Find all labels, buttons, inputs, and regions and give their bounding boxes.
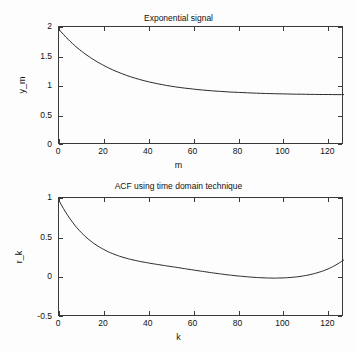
xtick-label-top-20: 20 xyxy=(98,147,107,156)
ylabel-acf: r_k xyxy=(14,232,24,282)
exponential-curve xyxy=(59,29,344,94)
matlab-figure-canvas: Exponential signal 2 1.5 1 0.5 0 y_m xyxy=(0,0,357,353)
xtick-label-acf-40: 40 xyxy=(143,319,152,328)
xlabel-exponential: m xyxy=(0,160,357,170)
xtick-label-acf-20: 20 xyxy=(98,319,107,328)
xtick-bottom-acf-20 xyxy=(104,311,105,315)
xtick-top-80 xyxy=(239,27,240,31)
ytick-label-top-1: 0.5 xyxy=(34,110,52,119)
xtick-label-top-40: 40 xyxy=(143,147,152,156)
xtick-label-acf-60: 60 xyxy=(188,319,197,328)
xtick-label-top-80: 80 xyxy=(233,147,242,156)
exponential-curve-svg xyxy=(59,27,344,145)
chart-title-exponential: Exponential signal xyxy=(0,13,357,23)
xtick-label-top-120: 120 xyxy=(320,147,334,156)
ytick-label-top-3: 1.5 xyxy=(34,51,52,60)
xtick-bottom-acf-0 xyxy=(59,311,60,315)
xtick-label-top-100: 100 xyxy=(275,147,289,156)
ytick-left-0p5 xyxy=(59,116,63,117)
plot-area-exponential xyxy=(58,26,343,144)
ytick-label-top-2: 1 xyxy=(34,81,52,90)
ytick-left-1 xyxy=(59,86,63,87)
ytick-label-bottom-2: 0.5 xyxy=(30,232,52,241)
xtick-top-100 xyxy=(283,27,284,31)
ytick-left-2 xyxy=(59,27,63,28)
xtick-bottom-20 xyxy=(104,139,105,143)
xtick-top-acf-100 xyxy=(283,198,284,202)
ytick-right-acf-m0p5 xyxy=(338,316,342,317)
ytick-right-1 xyxy=(338,86,342,87)
plot-area-acf xyxy=(58,197,343,316)
xtick-bottom-acf-100 xyxy=(283,311,284,315)
xtick-bottom-120 xyxy=(328,139,329,143)
ytick-label-top-4: 2 xyxy=(34,22,52,31)
xtick-top-acf-80 xyxy=(239,198,240,202)
ytick-left-acf-0p5 xyxy=(59,238,63,239)
ytick-right-acf-1 xyxy=(338,198,342,199)
xtick-bottom-0 xyxy=(59,139,60,143)
xtick-top-120 xyxy=(328,27,329,31)
xtick-bottom-40 xyxy=(149,139,150,143)
xtick-top-acf-40 xyxy=(149,198,150,202)
xtick-label-acf-0: 0 xyxy=(56,319,61,328)
ytick-label-bottom-1: 0 xyxy=(30,272,52,281)
ytick-left-acf-m0p5 xyxy=(59,316,63,317)
xtick-top-40 xyxy=(149,27,150,31)
xtick-label-top-60: 60 xyxy=(188,147,197,156)
ytick-right-0 xyxy=(338,144,342,145)
ytick-left-0 xyxy=(59,144,63,145)
xtick-bottom-acf-80 xyxy=(239,311,240,315)
ytick-label-bottom-3: 1 xyxy=(30,193,52,202)
ytick-left-1p5 xyxy=(59,57,63,58)
ylabel-exponential: y_m xyxy=(17,60,27,110)
acf-curve-svg xyxy=(59,198,344,317)
xtick-label-top-0: 0 xyxy=(56,147,61,156)
xtick-label-acf-100: 100 xyxy=(275,319,289,328)
xtick-label-acf-80: 80 xyxy=(233,319,242,328)
ytick-right-acf-0 xyxy=(338,277,342,278)
xtick-bottom-100 xyxy=(283,139,284,143)
xtick-top-acf-60 xyxy=(194,198,195,202)
xtick-label-acf-120: 120 xyxy=(320,319,334,328)
chart-title-acf: ACF using time domain technique xyxy=(0,181,357,191)
xlabel-acf: k xyxy=(0,332,357,342)
ytick-left-acf-1 xyxy=(59,198,63,199)
xtick-bottom-acf-120 xyxy=(328,311,329,315)
ytick-right-2 xyxy=(338,27,342,28)
axes-acf-time-domain: ACF using time domain technique 1 0.5 0 … xyxy=(0,181,357,353)
xtick-top-acf-20 xyxy=(104,198,105,202)
ytick-right-1p5 xyxy=(338,57,342,58)
xtick-top-60 xyxy=(194,27,195,31)
xtick-bottom-80 xyxy=(239,139,240,143)
ytick-right-0p5 xyxy=(338,116,342,117)
xtick-bottom-acf-60 xyxy=(194,311,195,315)
xtick-bottom-acf-40 xyxy=(149,311,150,315)
ytick-left-acf-0 xyxy=(59,277,63,278)
ytick-right-acf-0p5 xyxy=(338,238,342,239)
acf-curve xyxy=(59,200,344,278)
xtick-top-20 xyxy=(104,27,105,31)
xtick-bottom-60 xyxy=(194,139,195,143)
axes-exponential-signal: Exponential signal 2 1.5 1 0.5 0 y_m xyxy=(0,10,357,180)
xtick-top-acf-120 xyxy=(328,198,329,202)
ytick-label-top-0: 0 xyxy=(34,140,52,149)
ytick-label-bottom-0: -0.5 xyxy=(30,312,52,321)
